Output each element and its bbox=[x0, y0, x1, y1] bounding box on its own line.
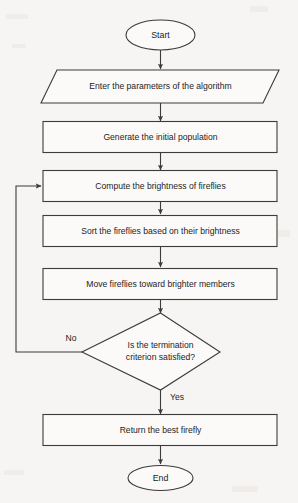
edge-label-yes: Yes bbox=[170, 392, 184, 402]
node-compute-label: Compute the brightness of fireflies bbox=[95, 181, 225, 191]
node-end-label: End bbox=[153, 473, 169, 483]
edge-label-no: No bbox=[66, 333, 77, 343]
flowchart-svg: Start Enter the parameters of the algori… bbox=[0, 0, 298, 503]
node-sort-label: Sort the fireflies based on their bright… bbox=[81, 226, 240, 236]
node-return-label: Return the best firefly bbox=[120, 425, 202, 435]
node-generate-label: Generate the initial population bbox=[103, 132, 217, 142]
node-decision-label-line1: Is the termination bbox=[128, 340, 194, 350]
node-move-label: Move fireflies toward brighter members bbox=[86, 279, 235, 289]
node-input-label: Enter the parameters of the algorithm bbox=[89, 81, 231, 91]
node-start-label: Start bbox=[151, 30, 170, 40]
node-decision-label-line2: criterion satisfied? bbox=[126, 352, 195, 362]
flowchart-canvas: Start Enter the parameters of the algori… bbox=[0, 0, 298, 503]
